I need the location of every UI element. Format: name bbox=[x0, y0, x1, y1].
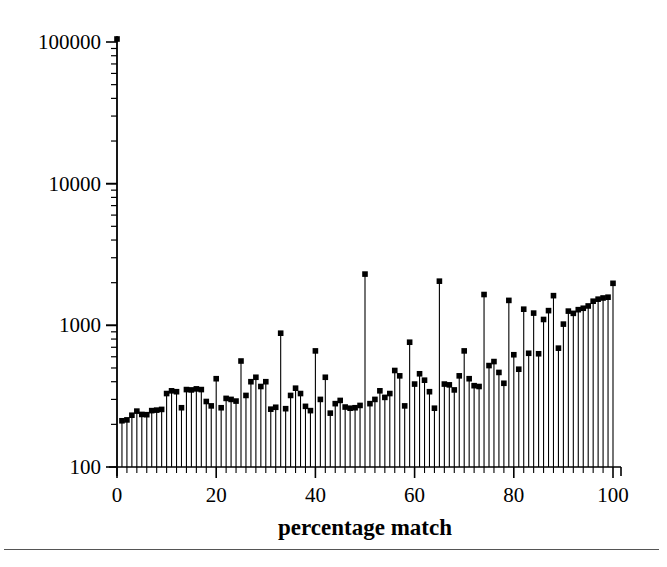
data-marker bbox=[268, 406, 274, 412]
data-marker bbox=[367, 401, 373, 407]
data-marker bbox=[585, 303, 591, 309]
data-marker bbox=[496, 370, 502, 376]
data-marker bbox=[561, 321, 567, 327]
data-marker bbox=[521, 306, 527, 312]
x-axis-title: percentage match bbox=[278, 515, 452, 540]
data-marker bbox=[129, 412, 135, 418]
data-marker bbox=[253, 374, 259, 380]
x-tick-label: 100 bbox=[597, 483, 629, 507]
data-marker bbox=[288, 393, 294, 399]
data-marker bbox=[447, 382, 453, 388]
data-marker bbox=[278, 330, 284, 336]
data-marker bbox=[273, 404, 279, 410]
data-marker bbox=[258, 384, 264, 390]
data-marker bbox=[124, 417, 130, 423]
data-marker bbox=[174, 389, 180, 395]
data-marker bbox=[387, 391, 393, 397]
data-marker bbox=[228, 397, 234, 403]
data-marker bbox=[486, 363, 492, 369]
figure-container: 100100010000100000020406080100percentage… bbox=[0, 0, 667, 567]
data-marker bbox=[580, 305, 586, 311]
data-marker bbox=[377, 388, 383, 394]
data-marker bbox=[298, 391, 304, 397]
data-marker bbox=[541, 317, 547, 323]
y-tick-label: 100 bbox=[70, 455, 102, 479]
data-marker bbox=[610, 281, 616, 287]
log-stem-chart: 100100010000100000020406080100percentage… bbox=[0, 0, 667, 567]
data-marker bbox=[144, 412, 150, 418]
data-marker bbox=[605, 294, 611, 300]
data-marker bbox=[318, 397, 324, 403]
data-marker bbox=[223, 396, 229, 402]
data-marker bbox=[159, 407, 165, 413]
x-tick-label: 40 bbox=[305, 483, 326, 507]
data-marker bbox=[476, 384, 482, 390]
data-marker bbox=[119, 418, 125, 424]
data-marker bbox=[481, 292, 487, 298]
data-marker bbox=[382, 395, 388, 401]
y-tick-label: 10000 bbox=[49, 172, 102, 196]
data-marker bbox=[392, 368, 398, 374]
data-marker bbox=[263, 379, 269, 385]
data-marker bbox=[293, 385, 299, 391]
data-marker bbox=[189, 387, 195, 393]
data-marker bbox=[303, 404, 309, 410]
data-marker bbox=[575, 307, 581, 313]
data-marker bbox=[456, 373, 462, 379]
x-tick-label: 60 bbox=[404, 483, 425, 507]
data-marker bbox=[442, 381, 448, 387]
data-marker bbox=[372, 397, 378, 403]
data-marker bbox=[566, 308, 572, 314]
page-divider-rule bbox=[4, 549, 659, 550]
data-marker bbox=[283, 406, 289, 412]
data-marker bbox=[164, 391, 170, 397]
x-tick-label: 80 bbox=[503, 483, 524, 507]
data-marker bbox=[466, 376, 472, 382]
data-marker bbox=[471, 383, 477, 389]
data-marker bbox=[432, 405, 438, 411]
data-marker bbox=[179, 405, 185, 411]
data-marker bbox=[208, 403, 214, 409]
data-marker bbox=[461, 348, 467, 354]
data-marker bbox=[213, 376, 219, 382]
data-marker bbox=[248, 379, 254, 385]
data-marker bbox=[332, 401, 338, 407]
data-marker bbox=[327, 410, 333, 416]
data-marker bbox=[595, 296, 601, 302]
data-marker bbox=[199, 387, 205, 393]
data-marker bbox=[600, 295, 606, 301]
data-marker bbox=[218, 405, 224, 411]
y-tick-label: 1000 bbox=[59, 313, 101, 337]
data-marker bbox=[194, 386, 200, 392]
data-marker bbox=[243, 393, 249, 399]
data-marker bbox=[491, 359, 497, 365]
data-marker bbox=[546, 308, 552, 314]
data-marker bbox=[501, 380, 507, 386]
data-marker bbox=[407, 339, 413, 345]
data-marker bbox=[233, 398, 239, 404]
data-marker bbox=[397, 373, 403, 379]
data-marker bbox=[313, 348, 319, 354]
data-marker bbox=[531, 310, 537, 316]
data-marker bbox=[154, 407, 160, 413]
data-marker bbox=[169, 388, 175, 394]
data-marker bbox=[352, 405, 358, 411]
data-marker bbox=[571, 311, 577, 317]
data-marker bbox=[437, 278, 443, 284]
data-marker bbox=[417, 371, 423, 377]
chart-background bbox=[0, 0, 667, 567]
data-marker bbox=[149, 408, 155, 414]
data-marker bbox=[451, 387, 457, 393]
data-marker bbox=[323, 374, 329, 380]
data-marker bbox=[556, 345, 562, 351]
data-marker bbox=[422, 377, 428, 383]
data-marker bbox=[516, 366, 522, 372]
data-marker bbox=[203, 399, 209, 405]
data-marker bbox=[511, 352, 517, 358]
data-marker bbox=[427, 389, 433, 395]
data-marker bbox=[238, 358, 244, 364]
data-marker bbox=[506, 298, 512, 304]
data-marker bbox=[412, 381, 418, 387]
data-marker bbox=[590, 298, 596, 304]
data-marker bbox=[536, 351, 542, 357]
